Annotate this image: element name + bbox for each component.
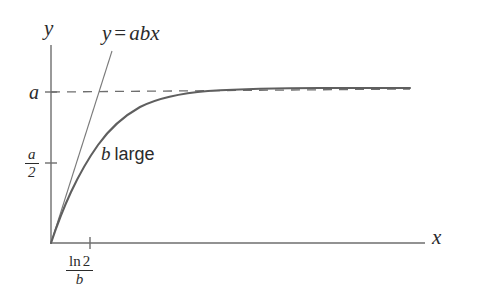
exponential-curve	[51, 88, 410, 243]
equation-equals-sign: =	[111, 21, 129, 45]
tangent-equation-label: y=abx	[102, 23, 160, 44]
curve-annotation-b-large: blarge	[101, 144, 155, 163]
ln-operator: ln	[69, 253, 81, 269]
fraction-a-over-2: a 2	[25, 147, 39, 180]
fraction-numerator: ln2	[66, 254, 93, 271]
y-tick-label-a-half: a 2	[25, 147, 39, 180]
fraction-denominator: 2	[25, 164, 39, 180]
x-axis-label: x	[432, 227, 441, 248]
figure-root: y x a a 2 ln2 b y=abx blarge	[0, 0, 477, 293]
y-tick-label-a: a	[29, 82, 39, 102]
plot-canvas	[0, 0, 477, 293]
ln-argument: 2	[81, 253, 91, 269]
fraction-denominator: b	[66, 271, 93, 287]
fraction-numerator: a	[25, 147, 39, 164]
x-tick-label-ln2-over-b: ln2 b	[66, 254, 93, 287]
annotation-word: large	[111, 144, 155, 164]
equation-rhs: abx	[129, 21, 159, 45]
y-axis-label: y	[44, 18, 53, 39]
fraction-ln2-over-b: ln2 b	[66, 254, 93, 287]
annotation-symbol: b	[101, 143, 111, 164]
equation-lhs: y	[102, 21, 111, 45]
